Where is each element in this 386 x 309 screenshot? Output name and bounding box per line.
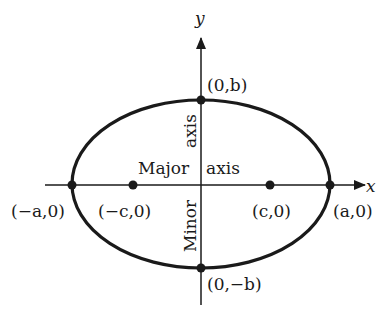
label-vertex-left: (−a,0) xyxy=(11,201,65,221)
point-focus-right xyxy=(266,181,275,190)
label-focus-left: (−c,0) xyxy=(98,201,151,221)
major-label: Major xyxy=(138,158,190,178)
label-vertex-right: (a,0) xyxy=(333,201,373,221)
point-covertex-bottom xyxy=(197,264,206,273)
point-vertex-left xyxy=(68,181,77,190)
point-vertex-right xyxy=(326,181,335,190)
minor-label: Minor xyxy=(180,199,200,252)
label-covertex-bottom: (0,−b) xyxy=(207,274,262,294)
minor-axis-label-top: axis xyxy=(180,114,200,148)
ellipse-diagram: y x (0,b) (0,−b) (−a,0) (−c,0) (c,0) (a,… xyxy=(0,0,386,309)
point-focus-left xyxy=(129,181,138,190)
x-axis-label: x xyxy=(366,176,376,196)
y-axis-label: y xyxy=(194,8,205,28)
label-focus-right: (c,0) xyxy=(252,201,291,221)
label-covertex-top: (0,b) xyxy=(207,75,247,95)
point-covertex-top xyxy=(197,96,206,105)
major-axis-label: axis xyxy=(206,158,240,178)
